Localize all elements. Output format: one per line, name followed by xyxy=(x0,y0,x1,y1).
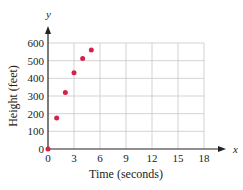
x-tick-label: 3 xyxy=(71,152,77,164)
data-points xyxy=(46,48,94,152)
y-tick-label: 300 xyxy=(28,90,45,102)
y-tick-label: 200 xyxy=(28,108,45,120)
x-tick-label: 6 xyxy=(97,152,103,164)
scatter-chart: 03691215180100200300400500600 Time (seco… xyxy=(0,0,243,190)
y-axis-variable: y xyxy=(45,8,51,20)
x-tick-label: 0 xyxy=(45,152,51,164)
x-tick-label: 18 xyxy=(199,152,211,164)
x-tick-label: 15 xyxy=(173,152,185,164)
y-tick-label: 100 xyxy=(28,125,45,137)
data-point xyxy=(63,90,68,95)
y-axis-arrow-icon xyxy=(45,26,51,34)
x-tick-label: 9 xyxy=(123,152,129,164)
x-axis-label: Time (seconds) xyxy=(89,167,163,181)
grid xyxy=(48,43,204,149)
data-point xyxy=(89,48,94,53)
tick-labels: 03691215180100200300400500600 xyxy=(28,37,211,164)
x-axis-arrow-icon xyxy=(218,146,226,152)
x-axis-variable: x xyxy=(232,143,238,155)
data-point xyxy=(54,115,59,120)
axes xyxy=(45,26,226,152)
y-tick-label: 600 xyxy=(28,37,45,49)
y-axis-label: Height (feet) xyxy=(6,65,20,127)
y-tick-label: 0 xyxy=(39,143,45,155)
x-tick-label: 12 xyxy=(147,152,158,164)
data-point xyxy=(80,56,85,61)
data-point xyxy=(72,70,77,75)
y-tick-label: 400 xyxy=(28,72,45,84)
y-tick-label: 500 xyxy=(28,55,45,67)
data-point xyxy=(46,147,51,152)
